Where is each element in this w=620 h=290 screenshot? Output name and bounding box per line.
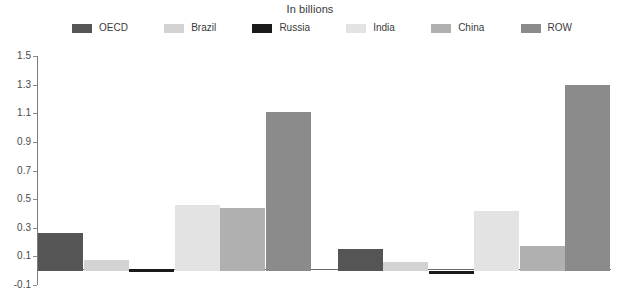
legend-item-china[interactable]: China [431, 21, 484, 35]
legend-label: OECD [99, 23, 128, 33]
y-tick-mark [33, 142, 37, 143]
bar-china-group1[interactable] [220, 208, 265, 271]
y-tick-label: 1.1 [17, 107, 31, 118]
y-tick-label: 0.5 [17, 193, 31, 204]
legend-swatch-icon [252, 24, 272, 33]
chart-title: In billions [0, 2, 620, 16]
bar-chart: In billions OECDBrazilRussiaIndiaChinaRO… [0, 0, 620, 290]
bar-oecd-group2[interactable] [338, 249, 383, 270]
legend-swatch-icon [346, 24, 366, 33]
bar-brazil-group1[interactable] [84, 260, 129, 271]
y-tick-label: 0.7 [17, 165, 31, 176]
bar-row-group1[interactable] [266, 112, 311, 271]
bar-russia-group2[interactable] [429, 271, 474, 274]
legend-label: ROW [548, 23, 572, 33]
y-tick-mark [33, 56, 37, 57]
y-tick-mark [33, 285, 37, 286]
y-tick-mark [33, 228, 37, 229]
y-tick-label: -0.1 [14, 279, 31, 290]
y-tick-label: 0.1 [17, 250, 31, 261]
legend-swatch-icon [164, 24, 184, 33]
y-tick-label: 0.9 [17, 136, 31, 147]
y-tick-label: 0.3 [17, 222, 31, 233]
bar-china-group2[interactable] [520, 246, 565, 270]
bar-oecd-group1[interactable] [38, 233, 83, 270]
plot-area: 1.51.31.10.90.70.50.30.1-0.1 [37, 56, 611, 285]
bar-russia-group1[interactable] [129, 269, 174, 272]
legend-item-russia[interactable]: Russia [252, 21, 310, 35]
bar-india-group2[interactable] [474, 211, 519, 271]
legend-label: Brazil [191, 23, 216, 33]
legend-item-india[interactable]: India [346, 21, 395, 35]
legend-item-brazil[interactable]: Brazil [164, 21, 216, 35]
bar-india-group1[interactable] [175, 205, 220, 271]
y-tick-mark [33, 113, 37, 114]
legend-item-row[interactable]: ROW [521, 21, 572, 35]
y-tick-mark [33, 199, 37, 200]
bar-series-container [38, 56, 611, 285]
y-tick-label: 1.5 [17, 50, 31, 61]
y-tick-mark [33, 85, 37, 86]
y-tick-mark [33, 171, 37, 172]
chart-legend: OECDBrazilRussiaIndiaChinaROW [72, 21, 572, 35]
legend-swatch-icon [72, 24, 92, 33]
legend-label: China [458, 23, 484, 33]
legend-swatch-icon [521, 24, 541, 33]
legend-label: India [373, 23, 395, 33]
legend-swatch-icon [431, 24, 451, 33]
y-tick-label: 1.3 [17, 79, 31, 90]
y-tick-mark [33, 256, 37, 257]
bar-brazil-group2[interactable] [383, 262, 428, 271]
legend-label: Russia [279, 23, 310, 33]
legend-item-oecd[interactable]: OECD [72, 21, 128, 35]
bar-row-group2[interactable] [565, 85, 610, 271]
